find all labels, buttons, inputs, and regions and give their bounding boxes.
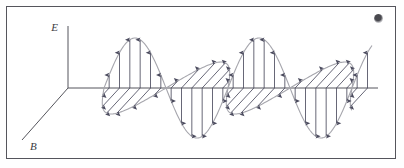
- em-wave-diagram: E B: [0, 0, 404, 168]
- b-field-vector: [213, 70, 230, 88]
- b-field-vector: [351, 88, 368, 106]
- b-field-vector: [134, 88, 151, 106]
- b-field-vector: [337, 70, 354, 88]
- b-axis-label: B: [30, 140, 37, 152]
- b-axis-line: [22, 88, 68, 140]
- e-axis-label: E: [50, 21, 58, 33]
- b-field-vector: [227, 88, 244, 106]
- b-field-vector: [306, 70, 323, 88]
- b-field-vector: [258, 88, 275, 106]
- b-field-vector: [182, 70, 199, 88]
- corner-artifact-icon: [374, 14, 383, 23]
- figure-page: E B: [0, 0, 404, 168]
- b-field-vector: [103, 88, 120, 106]
- coordinate-axes: E B: [22, 21, 378, 152]
